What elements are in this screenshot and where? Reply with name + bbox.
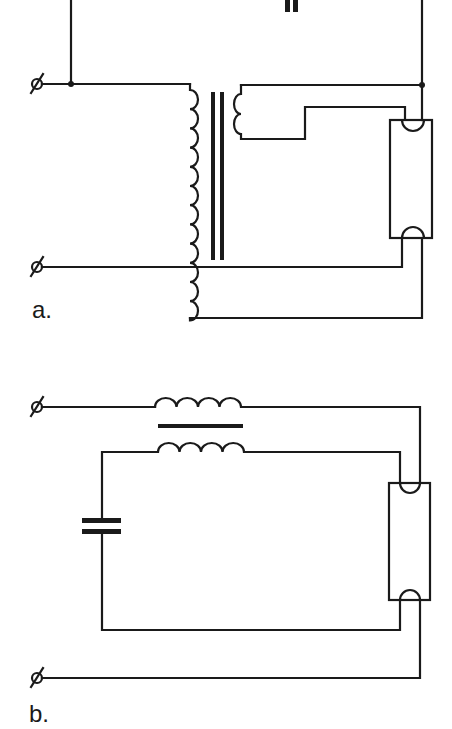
capacitor-a-icon xyxy=(285,0,298,12)
bottom-return-wire xyxy=(190,238,422,318)
junction-dot xyxy=(419,82,425,88)
junction-dot xyxy=(68,81,74,87)
primary-coil-icon xyxy=(190,84,198,320)
lower-inductor-icon xyxy=(102,443,400,520)
panel-a xyxy=(31,0,432,320)
iron-core-a-icon xyxy=(211,92,224,260)
terminal-b2-wire xyxy=(42,600,420,678)
panel-b xyxy=(31,397,430,687)
circuit-diagram xyxy=(0,0,452,729)
panel-a-label: a. xyxy=(32,296,52,324)
capacitor-b-icon xyxy=(82,518,121,534)
capacitor-return-wire xyxy=(102,534,400,630)
fluorescent-tube-a-icon xyxy=(390,120,432,238)
iron-core-b-icon xyxy=(158,424,243,428)
upper-inductor-icon xyxy=(155,398,420,483)
panel-b-label: b. xyxy=(29,700,49,728)
secondary-coil-icon xyxy=(234,85,405,139)
fluorescent-tube-b-icon xyxy=(389,483,430,600)
